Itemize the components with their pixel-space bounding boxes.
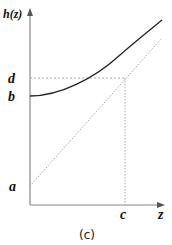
diagonal-line <box>30 38 162 186</box>
label-d: d <box>8 71 16 86</box>
x-axis-label: z <box>157 207 164 222</box>
h-curve <box>30 20 162 96</box>
y-axis-arrow-icon <box>27 8 33 16</box>
label-a: a <box>9 179 16 194</box>
label-b: b <box>8 89 15 104</box>
y-axis-label: h(z) <box>3 7 22 21</box>
diagram-canvas: h(z) d b a c z (c) <box>0 0 172 245</box>
label-c: c <box>120 207 127 222</box>
caption: (c) <box>79 228 95 242</box>
